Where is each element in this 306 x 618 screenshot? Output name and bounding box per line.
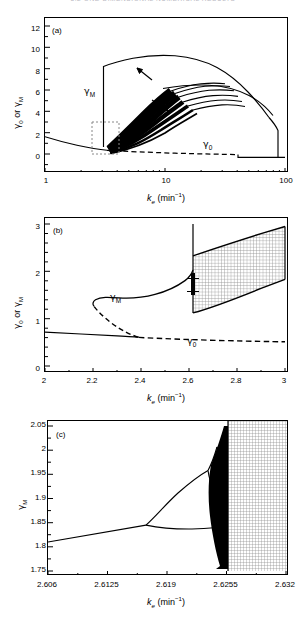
gamma0-stable-curve xyxy=(45,137,107,151)
panel-c-ytick-4: 1.85 xyxy=(18,518,46,526)
panel-b-ytick-0: 3 xyxy=(18,223,40,231)
panel-b-plot-frame xyxy=(44,217,288,372)
panel-c-ytick-0: 2.05 xyxy=(18,421,46,429)
panel-c-ytick-6: 1.75 xyxy=(18,566,46,574)
panel-c-ytick-2: 1.95 xyxy=(18,469,46,477)
panel-a-ytick-2: 8 xyxy=(18,68,40,76)
chaotic-black-region xyxy=(209,426,228,566)
panel-c-xtick-1: 2.6125 xyxy=(94,581,118,589)
panel-c-y-axis-title: γM xyxy=(16,500,28,510)
panel-c-x-axis-title: ke (min−1) xyxy=(147,595,185,609)
panel-a-x-axis-title: ke (min−1) xyxy=(147,191,185,205)
panel-b-ytick-1: 2 xyxy=(18,270,40,278)
panel-b-label: (b) xyxy=(53,226,63,235)
panel-b-xtick-2: 2.4 xyxy=(134,377,145,385)
panel-b-y-axis-title: γ0 or γM xyxy=(12,297,24,329)
panel-c-xtick-0: 2.606 xyxy=(37,581,57,589)
panel-c-ytick-5: 1.8 xyxy=(18,542,46,550)
panel-a-label: (a) xyxy=(52,26,62,35)
panel-a-gamma-M-label: γM xyxy=(84,85,95,98)
period-2-lower-branch xyxy=(146,525,214,529)
gamma0-unstable-curve xyxy=(139,337,285,341)
panel-b-plot-canvas xyxy=(45,218,288,372)
panel-a-ytick-3: 6 xyxy=(18,89,40,97)
chaotic-fan-band xyxy=(109,83,245,153)
panel-a-ytick-6: 0 xyxy=(18,153,40,161)
gammaM-stable-branch xyxy=(93,270,193,306)
panel-b-x-axis-title: ke (min−1) xyxy=(147,391,185,405)
period-1-branch xyxy=(48,525,146,542)
panel-b-xtick-5: 3 xyxy=(282,377,286,385)
panel-a-plot-canvas xyxy=(45,18,288,172)
panel-a-xtick-1: 10 xyxy=(162,177,171,185)
panel-a: (a) 12 10 8 6 4 2 0 1 10 100 γ0 or γM ke… xyxy=(0,12,306,208)
panel-a-ytick-5: 2 xyxy=(18,132,40,140)
panel-a-ytick-0: 12 xyxy=(18,25,40,33)
panel-c-plot-canvas xyxy=(48,421,288,575)
gamma0-stable-curve xyxy=(45,332,139,337)
panel-a-gamma-0-label: γ0 xyxy=(203,138,212,151)
panel-c-ytick-1: 2 xyxy=(18,445,46,453)
panel-c-xtick-4: 2.632 xyxy=(275,581,295,589)
chaotic-band-fill xyxy=(193,227,285,313)
gamma0-unstable-curve xyxy=(107,150,238,154)
panel-c: (c) 2.05 2 1.95 1.9 1.85 1.8 1.75 2.606 … xyxy=(0,412,306,618)
panel-b-xtick-4: 2.8 xyxy=(230,377,241,385)
panel-b-xtick-0: 2 xyxy=(42,377,46,385)
figure-page: 3.2 ONE-DIMENSIONAL NUMERICAL RESULTS xyxy=(0,0,306,618)
panel-b-ytick-3: 0 xyxy=(18,365,40,373)
panel-c-label: (c) xyxy=(56,430,65,439)
panel-c-xtick-3: 2.6255 xyxy=(213,581,237,589)
panel-c-plot-frame xyxy=(47,420,288,575)
panel-a-y-axis-title: γ0 or γM xyxy=(12,97,24,129)
period-2-upper-branch xyxy=(146,471,208,526)
panel-c-xtick-2: 2.619 xyxy=(156,581,176,589)
chaotic-black-region-tail xyxy=(216,566,228,569)
panel-a-ytick-1: 10 xyxy=(18,46,40,54)
panel-b-xtick-1: 2.2 xyxy=(86,377,97,385)
panel-a-xtick-0: 1 xyxy=(44,177,48,185)
panel-a-xtick-2: 100 xyxy=(279,177,292,185)
gammaM-right-shoulder xyxy=(269,118,278,158)
panel-b-xtick-3: 2.6 xyxy=(182,377,193,385)
running-head: 3.2 ONE-DIMENSIONAL NUMERICAL RESULTS xyxy=(0,0,306,3)
panel-b-gamma-0-label: γ0 xyxy=(187,335,196,348)
post-transition-hatched-region xyxy=(228,421,288,571)
panel-b-gamma-M-label: γM xyxy=(110,291,121,304)
panel-a-plot-frame xyxy=(44,17,288,172)
panel-b: (b) 3 2 1 0 2 2.2 2.4 2.6 2.8 3 γ0 or γM… xyxy=(0,212,306,408)
gammaM-unstable-branch xyxy=(94,307,138,338)
